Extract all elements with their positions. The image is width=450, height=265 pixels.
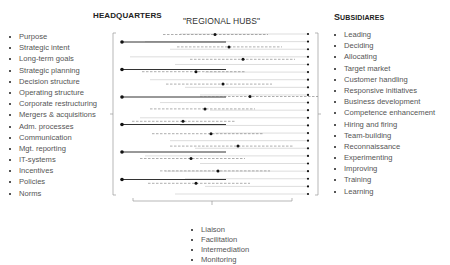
regional-hub-node [249, 95, 252, 98]
headquarters-node [120, 40, 124, 44]
subsidiary-node [307, 63, 309, 65]
regional-hub-node [214, 33, 217, 36]
regional-hub-node [217, 169, 220, 172]
subsidiary-node [307, 117, 309, 119]
subsidiary-node [307, 48, 309, 50]
links [120, 33, 318, 195]
subsidiary-node [307, 71, 309, 73]
subsidiary-node [307, 178, 309, 180]
subsidiary-node [307, 162, 309, 164]
subsidiary-node [307, 147, 309, 149]
subsidiary-node [307, 170, 309, 172]
subsidiary-node [307, 155, 309, 157]
subsidiary-node [307, 132, 309, 134]
headquarters-node [120, 68, 124, 72]
regional-hub-node [195, 182, 198, 185]
regional-hub-node [182, 120, 185, 123]
subsidiary-node [307, 185, 309, 187]
subsidiary-node [307, 79, 309, 81]
subsidiary-node [307, 33, 309, 35]
subsidiary-node [307, 193, 309, 195]
hq-bracket [110, 33, 116, 195]
regional-hub-node [222, 83, 225, 86]
headquarters-node [120, 123, 124, 127]
regional-hub-node [228, 45, 231, 48]
regional-hub-node [210, 132, 213, 135]
hub-bracket [133, 198, 292, 205]
hub-item: Monitoring [190, 255, 249, 265]
regional-hub-node [204, 107, 207, 110]
regional-hub-node [195, 70, 198, 73]
subsidiary-node [307, 41, 309, 43]
subsidiary-node [307, 109, 309, 111]
subsidiary-node [307, 124, 309, 126]
headquarters-node [120, 95, 124, 99]
headquarters-node [120, 150, 124, 154]
subsidiary-node [307, 140, 309, 142]
subsidiary-bracket [315, 33, 321, 195]
subsidiary-node [307, 94, 309, 96]
subsidiary-node [307, 56, 309, 58]
regional-hub-node [237, 145, 240, 148]
regional-hub-node [190, 157, 193, 160]
regional-hub-node [242, 58, 245, 61]
headquarters-node [120, 178, 124, 182]
subsidiary-node [307, 101, 309, 103]
subsidiary-node [307, 86, 309, 88]
